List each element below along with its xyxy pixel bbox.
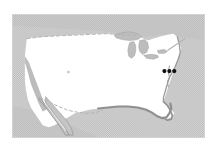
site-marker[interactable]: [167, 69, 171, 73]
screenshot-root: Continental United States Mid-Atlantic c…: [0, 0, 216, 153]
site-marker[interactable]: [162, 69, 166, 73]
site-marker[interactable]: [172, 69, 176, 73]
map-canvas: [13, 15, 204, 137]
site-markers[interactable]: [162, 69, 176, 73]
map-figure: Continental United States Mid-Atlantic c…: [12, 14, 205, 138]
interior-faint-mark: [67, 71, 70, 74]
